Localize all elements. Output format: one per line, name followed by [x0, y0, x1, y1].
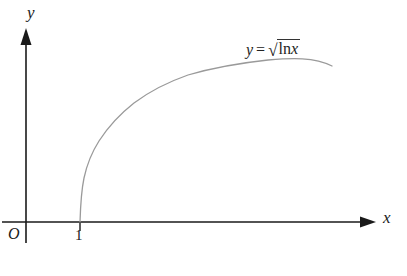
origin-label: O [8, 226, 20, 242]
radicand: lnx [277, 39, 300, 57]
function-curve [80, 59, 332, 222]
y-axis-arrowhead [21, 28, 32, 45]
function-graph-figure: y x O 1 y=√lnx [0, 0, 407, 276]
graph-canvas [0, 0, 407, 276]
x-axis-label: x [383, 209, 391, 226]
x-axis-arrowhead [360, 217, 376, 228]
radical-sign-icon: √ [268, 41, 277, 60]
radical-expression: √lnx [268, 40, 300, 58]
curve-equation-label: y=√lnx [246, 40, 300, 58]
equation-operator: = [253, 41, 268, 58]
radicand-variable: x [291, 40, 298, 57]
y-axis-label: y [27, 4, 35, 21]
radicand-function: ln [278, 40, 290, 57]
x-tick-label-1: 1 [75, 228, 83, 243]
